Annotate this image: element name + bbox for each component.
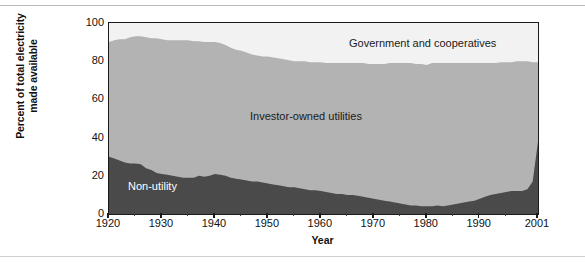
x-minor-tick-1935 xyxy=(187,213,188,216)
bottom-divider-rule xyxy=(0,256,585,257)
x-tick-label-1980: 1980 xyxy=(403,217,449,229)
x-tick-label-1930: 1930 xyxy=(138,217,184,229)
y-axis-title-line2: made available xyxy=(27,0,40,166)
x-minor-tick-1995 xyxy=(505,213,506,216)
series-label-non-utility: Non-utility xyxy=(128,180,177,192)
x-tick-label-1940: 1940 xyxy=(191,217,237,229)
top-divider-rule xyxy=(0,5,585,6)
y-axis-title: Percent of total electricity made availa… xyxy=(14,0,54,166)
x-minor-tick-1925 xyxy=(134,213,135,216)
x-axis-title: Year xyxy=(108,234,537,246)
y-tick-label-60: 60 xyxy=(74,92,104,104)
x-tick-label-2001: 2001 xyxy=(514,217,560,229)
series-label-investor-owned: Investor-owned utilities xyxy=(250,110,362,122)
x-minor-tick-1955 xyxy=(293,213,294,216)
series-label-government: Government and cooperatives xyxy=(349,37,496,49)
x-tick-label-1970: 1970 xyxy=(350,217,396,229)
x-minor-tick-1985 xyxy=(452,213,453,216)
y-tick-label-80: 80 xyxy=(74,54,104,66)
y-tick-label-40: 40 xyxy=(74,131,104,143)
y-axis-title-line1: Percent of total electricity xyxy=(14,0,27,166)
x-minor-tick-1975 xyxy=(399,213,400,216)
y-tick-label-20: 20 xyxy=(74,169,104,181)
x-tick-label-1990: 1990 xyxy=(456,217,502,229)
x-minor-tick-1945 xyxy=(240,213,241,216)
x-minor-tick-1965 xyxy=(346,213,347,216)
chart-page: Percent of total electricity made availa… xyxy=(0,0,585,264)
x-tick-label-1920: 1920 xyxy=(85,217,131,229)
y-tick-label-100: 100 xyxy=(74,16,104,28)
x-tick-label-1950: 1950 xyxy=(244,217,290,229)
x-tick-label-1960: 1960 xyxy=(297,217,343,229)
